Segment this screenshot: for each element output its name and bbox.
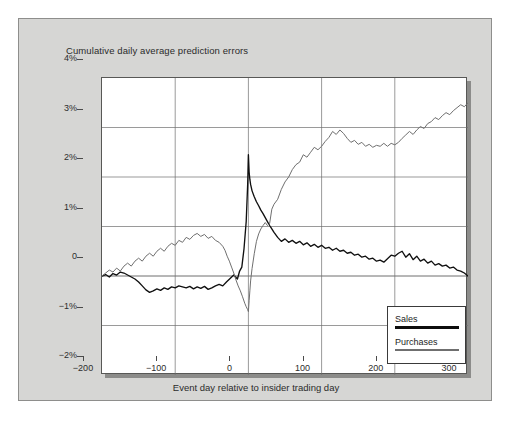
y-tick-mark-4 xyxy=(77,158,83,159)
y-tick-label-3: 1% xyxy=(43,202,77,212)
x-tick-label-1: −100 xyxy=(132,363,180,373)
y-tick-label-2: 0 xyxy=(43,251,77,261)
legend-label-purchases: Purchases xyxy=(395,337,461,348)
legend-item-purchases[interactable]: Purchases xyxy=(395,337,461,351)
legend-swatch-sales xyxy=(395,326,459,329)
x-tick-label-2: 0 xyxy=(205,363,253,373)
x-tick-label-3: 100 xyxy=(279,363,327,373)
x-tick-label-5: 300 xyxy=(425,363,473,373)
legend-item-sales[interactable]: Sales xyxy=(395,314,461,329)
series-line-purchases xyxy=(102,103,468,312)
y-tick-label-1: −1% xyxy=(43,301,77,311)
x-tick-mark-1 xyxy=(156,356,157,361)
y-tick-mark-6 xyxy=(77,59,83,60)
chart-legend[interactable]: Sales Purchases xyxy=(387,306,466,364)
x-tick-mark-2 xyxy=(229,356,230,361)
series-line-sales xyxy=(102,155,468,293)
x-tick-mark-3 xyxy=(303,356,304,361)
legend-swatch-purchases xyxy=(395,349,459,351)
figure: Cumulative daily average prediction erro… xyxy=(0,0,512,428)
series-lines xyxy=(102,103,468,312)
legend-label-sales: Sales xyxy=(395,314,461,325)
y-tick-mark-5 xyxy=(77,109,83,110)
y-tick-label-0: −2% xyxy=(43,350,77,360)
y-tick-label-5: 3% xyxy=(43,103,77,113)
x-tick-label-4: 200 xyxy=(352,363,400,373)
chart-title: Cumulative daily average prediction erro… xyxy=(66,45,248,56)
y-tick-label-6: 4% xyxy=(43,53,77,63)
y-tick-mark-2 xyxy=(77,257,83,258)
chart-panel: Cumulative daily average prediction erro… xyxy=(18,18,492,401)
y-tick-label-4: 2% xyxy=(43,152,77,162)
x-tick-mark-4 xyxy=(376,356,377,361)
y-tick-mark-1 xyxy=(77,307,83,308)
x-tick-mark-0 xyxy=(83,356,84,361)
x-axis-label: Event day relative to insider trading da… xyxy=(0,382,512,393)
y-tick-mark-3 xyxy=(77,208,83,209)
x-tick-label-0: −200 xyxy=(59,363,107,373)
